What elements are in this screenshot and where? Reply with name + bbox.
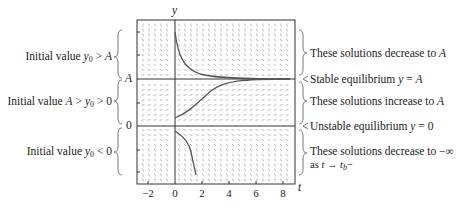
brace-right-3	[299, 130, 307, 175]
brace-left-1	[114, 30, 122, 78]
annotation-prefix: Initial value	[7, 95, 65, 107]
annotation-text: Unstable equilibrium	[310, 120, 410, 132]
right-braces	[299, 30, 307, 175]
annotation-stable-equilibrium: Stable equilibrium y = A	[310, 74, 423, 86]
annotation-math: A	[439, 47, 446, 59]
level-label-zero: 0	[126, 120, 132, 132]
solution-curve-decreasing-to-neg-infinity	[175, 131, 196, 175]
direction-field	[142, 24, 289, 182]
x-tick-6: 6	[253, 188, 259, 199]
annotation-text: Stable equilibrium	[310, 73, 398, 85]
annotation-initial-negative: Initial value y0 < 0	[27, 146, 112, 159]
annotation-text: These solutions increase to	[310, 95, 437, 107]
annotation-text: These solutions decrease to −∞	[310, 145, 454, 157]
x-tick-4: 4	[226, 188, 232, 199]
annotation-initial-above-A: Initial value y0 > A	[25, 51, 112, 64]
x-tick-neg2: −2	[142, 188, 154, 199]
annotation-initial-between: Initial value A > y0 > 0	[7, 96, 112, 109]
annotation-increase-to-A: These solutions increase to A	[310, 96, 444, 108]
annotation-math: A	[437, 95, 444, 107]
x-tick-2: 2	[199, 188, 205, 199]
x-axis-label: t	[298, 182, 301, 194]
annotation-text: These solutions decrease to	[310, 47, 439, 59]
brace-right-1	[299, 30, 307, 75]
y-axis-label: y	[172, 5, 177, 17]
brace-left-2	[114, 80, 122, 124]
left-braces	[114, 30, 122, 175]
annotation-as-t-to-tb: as t → tb−	[310, 160, 353, 172]
brace-right-2	[299, 82, 307, 124]
annotation-prefix: Initial value	[27, 145, 85, 157]
annotation-prefix: Initial value	[25, 50, 83, 62]
x-tick-8: 8	[280, 188, 286, 199]
annotation-decrease-to-neg-infinity: These solutions decrease to −∞	[310, 146, 454, 158]
annotation-decrease-to-A: These solutions decrease to A	[310, 48, 446, 60]
x-tick-0: 0	[172, 188, 178, 199]
brace-left-3	[114, 128, 122, 175]
level-label-A: A	[125, 73, 132, 85]
annotation-unstable-equilibrium: Unstable equilibrium y = 0	[310, 121, 433, 133]
